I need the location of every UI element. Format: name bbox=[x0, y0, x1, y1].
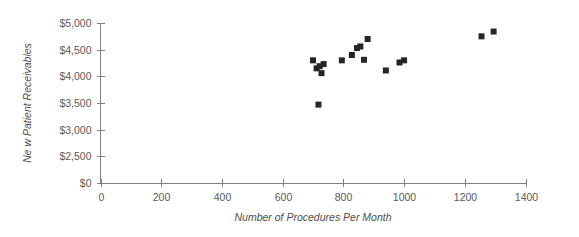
x-axis-tick-label: 800 bbox=[335, 191, 353, 203]
y-axis-tick-label: $5,000 bbox=[59, 17, 91, 29]
y-axis-tick-labels: $0$2,500$3,000$3,500$4,000$4,500$5,000 bbox=[59, 17, 91, 189]
data-point bbox=[383, 67, 389, 73]
y-axis-tick-label: $4,500 bbox=[59, 44, 91, 56]
data-point bbox=[319, 70, 325, 76]
data-point bbox=[361, 57, 367, 63]
plot-area: $0$2,500$3,000$3,500$4,000$4,500$5,000 0… bbox=[0, 0, 579, 237]
data-point bbox=[491, 29, 497, 35]
data-point bbox=[321, 61, 327, 67]
data-point bbox=[339, 57, 345, 63]
x-axis-tick-label: 400 bbox=[214, 191, 232, 203]
x-axis-tick-labels: 0200400600800100012001400 bbox=[99, 191, 539, 203]
y-axis-tick-label: $3,500 bbox=[59, 97, 91, 109]
data-point bbox=[315, 102, 321, 108]
x-axis-tick-label: 1000 bbox=[393, 191, 417, 203]
data-point-markers bbox=[310, 29, 497, 108]
x-axis-tick-label: 1400 bbox=[515, 191, 539, 203]
y-axis-tick-label: $3,000 bbox=[59, 124, 91, 136]
x-axis-tick-label: 1200 bbox=[454, 191, 478, 203]
y-axis-tick-label: $4,000 bbox=[59, 70, 91, 82]
y-axis-title: Ne w Patient Receivables bbox=[21, 42, 33, 162]
x-axis-tick-label: 200 bbox=[153, 191, 171, 203]
data-point bbox=[357, 43, 363, 49]
data-point bbox=[365, 36, 371, 42]
scatter-plot-chart: $0$2,500$3,000$3,500$4,000$4,500$5,000 0… bbox=[0, 0, 579, 237]
y-axis-tick-label: $0 bbox=[80, 177, 92, 189]
data-point bbox=[478, 33, 484, 39]
data-point bbox=[349, 52, 355, 58]
x-axis-tick-label: 600 bbox=[275, 191, 293, 203]
data-point bbox=[310, 57, 316, 63]
x-axis-tick-label: 0 bbox=[99, 191, 105, 203]
data-point bbox=[401, 57, 407, 63]
y-axis-tick-label: $2,500 bbox=[59, 150, 91, 162]
x-axis-title: Number of Procedures Per Month bbox=[235, 211, 392, 223]
